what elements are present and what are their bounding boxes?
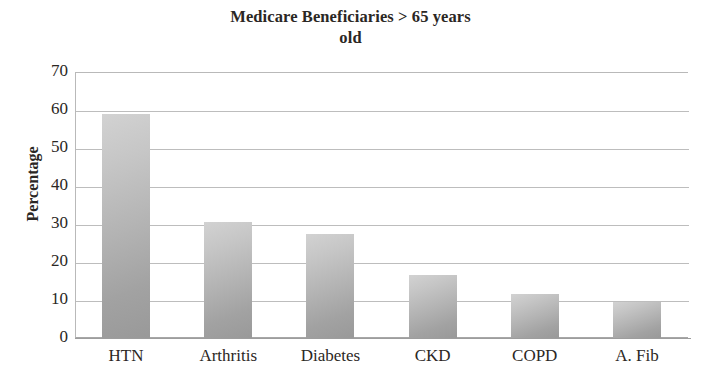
chart-title: Medicare Beneficiaries > 65 years old (0, 6, 701, 48)
y-tick-label-50: 50 (6, 137, 68, 157)
chart-title-line-1: Medicare Beneficiaries > 65 years (0, 6, 701, 27)
y-tick-label-30: 30 (6, 213, 68, 233)
y-tick-label-10: 10 (6, 289, 68, 309)
x-tick-label-copd: COPD (484, 346, 586, 366)
y-tick-label-40: 40 (6, 175, 68, 195)
x-axis-line (75, 338, 691, 339)
y-tick-label-0: 0 (6, 327, 68, 347)
chart-title-line-2: old (0, 27, 701, 48)
x-tick-label-ckd: CKD (382, 346, 484, 366)
bar-diabetes (306, 234, 354, 339)
x-tick-label-htn: HTN (75, 346, 177, 366)
x-tick-label-arthritis: Arthritis (177, 346, 279, 366)
x-axis-tick-labels: HTNArthritisDiabetesCKDCOPDA. Fib (75, 346, 688, 376)
bar-a-fib (613, 302, 661, 338)
y-tick-label-70: 70 (6, 61, 68, 81)
bar-htn (102, 114, 150, 338)
y-axis-tick-labels: 706050403020100 (0, 0, 68, 388)
bar-chart-figure: Medicare Beneficiaries > 65 years old Pe… (0, 0, 701, 388)
bar-ckd (409, 275, 457, 338)
y-tick-label-60: 60 (6, 99, 68, 119)
bar-arthritis (204, 222, 252, 338)
bar-copd (511, 294, 559, 338)
y-tick-label-20: 20 (6, 251, 68, 271)
x-tick-label-a-fib: A. Fib (586, 346, 688, 366)
bars-layer (75, 72, 688, 338)
x-tick-label-diabetes: Diabetes (279, 346, 381, 366)
